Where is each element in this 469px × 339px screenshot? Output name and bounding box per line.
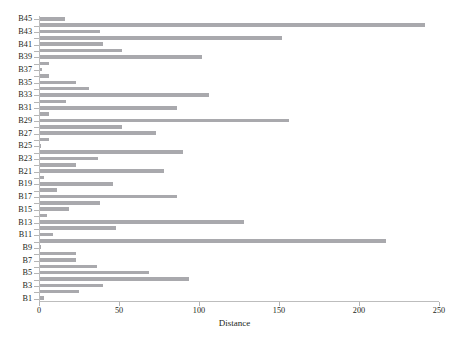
bar-b2 [39, 290, 79, 294]
y-tick-label-b11: B11 [19, 231, 32, 239]
x-tick-label-50: 50 [115, 306, 123, 316]
y-tick-label-wrap: B33 [0, 95, 32, 96]
bar-b23 [39, 157, 98, 161]
y-tick-label-wrap: B15 [0, 210, 32, 211]
x-tick-label-0: 0 [37, 306, 41, 316]
y-tick [34, 273, 39, 274]
bar-b28 [39, 125, 122, 129]
y-tick [34, 242, 39, 243]
bar-b12 [39, 226, 116, 230]
bar-b34 [39, 87, 89, 91]
y-tick-label-wrap: B39 [0, 57, 32, 58]
y-tick-label-b1: B1 [22, 295, 32, 303]
bar-b11 [39, 233, 53, 237]
bar-b22 [39, 163, 76, 167]
y-tick-label-wrap: B43 [0, 32, 32, 33]
y-tick [34, 45, 39, 46]
y-tick [34, 210, 39, 211]
y-tick [34, 140, 39, 141]
y-tick [34, 203, 39, 204]
bar-b10 [39, 239, 386, 243]
bar-b4 [39, 277, 189, 281]
y-tick [34, 127, 39, 128]
y-tick [34, 261, 39, 262]
y-tick [34, 95, 39, 96]
y-tick [34, 146, 39, 147]
y-tick-label-wrap: B5 [0, 273, 32, 274]
y-tick [34, 286, 39, 287]
y-tick-label-wrap: B3 [0, 286, 32, 287]
bar-b36 [39, 74, 49, 78]
bar-b6 [39, 265, 97, 269]
y-tick-label-b37: B37 [18, 66, 32, 74]
y-tick-label-wrap: B9 [0, 248, 32, 249]
bar-b18 [39, 188, 57, 192]
bar-b24 [39, 150, 183, 154]
y-tick-label-b27: B27 [18, 129, 32, 137]
bar-b42 [39, 36, 282, 40]
y-tick-label-b39: B39 [18, 53, 32, 61]
y-tick-label-b21: B21 [18, 168, 32, 176]
y-tick [34, 292, 39, 293]
y-tick-label-wrap: B45 [0, 19, 32, 20]
x-tick-label-200: 200 [353, 306, 365, 316]
y-tick [34, 57, 39, 58]
y-tick-label-wrap: B11 [0, 235, 32, 236]
y-tick [34, 115, 39, 116]
y-tick-label-b29: B29 [18, 117, 32, 125]
y-tick [34, 32, 39, 33]
y-tick [34, 134, 39, 135]
y-tick [34, 223, 39, 224]
y-tick-label-wrap: B37 [0, 70, 32, 71]
bar-b44 [39, 23, 425, 27]
bar-b13 [39, 220, 244, 224]
y-tick-label-b15: B15 [18, 206, 32, 214]
y-tick [34, 299, 39, 300]
bar-b35 [39, 81, 76, 85]
bar-b38 [39, 62, 49, 66]
y-tick-label-b43: B43 [18, 28, 32, 36]
y-tick [34, 191, 39, 192]
x-axis-spine [39, 301, 439, 302]
y-tick [34, 235, 39, 236]
x-axis-title: Distance [0, 318, 469, 328]
bar-chart-figure: B45B43B41B39B37B35B33B31B29B27B25B23B21B… [0, 0, 469, 339]
y-tick-label-b13: B13 [18, 218, 32, 226]
y-tick [34, 64, 39, 65]
bar-b3 [39, 284, 103, 288]
x-tick-label-150: 150 [273, 306, 285, 316]
bar-b19 [39, 182, 113, 186]
y-tick [34, 70, 39, 71]
y-tick [34, 248, 39, 249]
y-tick-label-b5: B5 [22, 269, 32, 277]
y-tick [34, 172, 39, 173]
y-tick-label-b31: B31 [18, 104, 32, 112]
bar-b26 [39, 138, 49, 142]
bar-b32 [39, 100, 66, 104]
bar-b8 [39, 252, 76, 256]
bar-b33 [39, 93, 209, 97]
y-tick-label-wrap: B27 [0, 134, 32, 135]
y-tick-label-wrap: B31 [0, 108, 32, 109]
bar-b40 [39, 49, 122, 53]
y-tick-label-b17: B17 [18, 193, 32, 201]
y-tick-label-b35: B35 [18, 79, 32, 87]
y-tick [34, 153, 39, 154]
bar-b17 [39, 195, 177, 199]
y-tick-label-b25: B25 [18, 142, 32, 150]
y-tick [34, 108, 39, 109]
bar-b29 [39, 119, 289, 123]
y-tick-label-b45: B45 [18, 15, 32, 23]
bar-b21 [39, 169, 164, 173]
bar-b15 [39, 207, 69, 211]
y-tick [34, 26, 39, 27]
y-tick [34, 165, 39, 166]
bar-b39 [39, 55, 202, 59]
y-tick [34, 184, 39, 185]
plot-area [39, 16, 439, 302]
y-axis-spine [39, 16, 40, 302]
y-tick-label-wrap: B7 [0, 261, 32, 262]
y-tick [34, 280, 39, 281]
y-tick [34, 178, 39, 179]
y-tick-label-wrap: B21 [0, 172, 32, 173]
